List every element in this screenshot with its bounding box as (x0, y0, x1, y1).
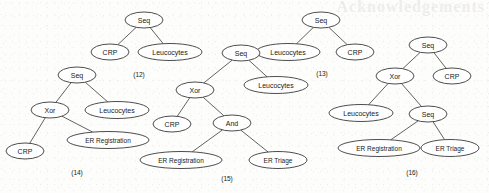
tree-13-edges (296, 27, 347, 44)
node-seq[interactable]: Seq (409, 37, 447, 53)
node-label: Seq (235, 50, 248, 58)
tree-edge (192, 130, 222, 152)
node-label: Seq (71, 72, 84, 80)
tree-edge (402, 84, 422, 107)
node-er-registration[interactable]: ER Registration (140, 152, 222, 169)
node-er-registration[interactable]: ER Registration (67, 132, 149, 149)
tree-edge (203, 97, 224, 116)
node-leucocytes[interactable]: Leucocytes (85, 102, 149, 119)
node-er-triage[interactable]: ER Triage (421, 140, 479, 157)
node-leucocytes[interactable]: Leucocytes (138, 44, 202, 61)
node-crp[interactable]: CRP (6, 143, 44, 159)
node-label: ER Registration (356, 145, 402, 153)
tree-caption: (14) (71, 169, 83, 177)
node-seq[interactable]: Seq (58, 67, 96, 83)
node-label: Leucocytes (258, 82, 294, 90)
node-label: Xor (390, 73, 402, 80)
node-seq[interactable]: Seq (302, 12, 340, 28)
tree-edge (433, 122, 445, 140)
node-leucocytes[interactable]: Leucocytes (256, 44, 320, 61)
node-crp[interactable]: CRP (433, 68, 471, 84)
tree-edge (204, 60, 232, 83)
node-label: Leucocytes (99, 107, 135, 115)
tree-14: SeqXorLeucocytesCRPER Registration(14) (6, 67, 149, 177)
node-label: CRP (445, 73, 460, 80)
node-label: ER Triage (436, 145, 465, 153)
tree-edge (249, 60, 267, 77)
node-label: Seq (315, 17, 328, 25)
node-crp[interactable]: CRP (336, 44, 374, 60)
node-label: Xor (45, 107, 57, 114)
node-seq-2[interactable]: Seq (409, 106, 447, 122)
node-label: And (226, 120, 239, 127)
node-and[interactable]: And (213, 115, 251, 131)
tree-15: SeqLeucocytesXorCRPAndER RegistrationER … (140, 45, 308, 183)
tree-edge (329, 27, 347, 44)
tree-caption: (16) (406, 169, 418, 177)
tree-edge (30, 118, 46, 144)
node-label: CRP (18, 148, 33, 155)
tree-caption: (12) (133, 71, 145, 79)
node-er-triage[interactable]: ER Triage (249, 152, 307, 169)
node-er-registration[interactable]: ER Registration (338, 140, 420, 157)
node-xor[interactable]: Xor (376, 68, 414, 84)
node-seq[interactable]: Seq (125, 12, 163, 28)
tree-edge (177, 98, 190, 117)
node-label: Seq (422, 42, 435, 50)
tree-edge (56, 83, 71, 103)
node-label: Seq (138, 17, 151, 25)
node-crp[interactable]: CRP (91, 44, 129, 60)
tree-caption: (13) (316, 70, 328, 78)
tree-15-edges (177, 60, 268, 152)
tree-edge (150, 28, 163, 44)
tree-edge (241, 130, 268, 152)
node-xor[interactable]: Xor (176, 82, 214, 98)
tree-edge (296, 27, 313, 43)
tree-12-edges (118, 27, 163, 44)
tree-16-edges (369, 52, 447, 140)
node-label: ER Triage (264, 157, 293, 165)
node-crp[interactable]: CRP (153, 116, 191, 132)
tree-edge (118, 27, 136, 44)
tree-canvas: SeqCRPLeucocytes(12)SeqLeucocytesCRP(13)… (0, 0, 489, 193)
tree-edge (85, 82, 107, 102)
node-label: Seq (422, 111, 435, 119)
node-leucocytes[interactable]: Leucocytes (244, 77, 308, 94)
node-seq[interactable]: Seq (222, 45, 260, 61)
node-label: ER Registration (85, 137, 131, 145)
process-tree-figure: Acknowledgements SeqCRPLeucocytes(12)Seq… (0, 0, 489, 193)
node-label: CRP (165, 121, 180, 128)
tree-12: SeqCRPLeucocytes(12) (91, 12, 202, 79)
tree-13: SeqLeucocytesCRP(13) (256, 12, 374, 78)
node-label: Xor (190, 87, 202, 94)
tree-edge (434, 53, 446, 69)
node-leucocytes[interactable]: Leucocytes (329, 105, 393, 122)
node-label: Leucocytes (343, 110, 379, 118)
tree-caption: (15) (221, 175, 233, 183)
node-label: CRP (103, 49, 118, 56)
node-label: CRP (348, 49, 363, 56)
node-label: Leucocytes (270, 49, 306, 57)
tree-edge (391, 121, 418, 140)
tree-edge (62, 116, 93, 132)
tree-edge (403, 52, 420, 68)
node-label: ER Registration (158, 157, 204, 165)
node-xor[interactable]: Xor (31, 102, 69, 118)
node-label: Leucocytes (152, 49, 188, 57)
tree-edge (369, 83, 389, 104)
